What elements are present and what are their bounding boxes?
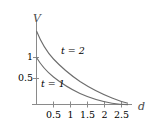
x-axis-title: d <box>138 95 145 114</box>
curve-label-t-1: t = 1 <box>41 78 65 89</box>
y-tick-label-1: 1 <box>25 51 33 62</box>
curve-t-2 <box>37 31 129 103</box>
x-tick-label-1: 1 <box>64 109 77 120</box>
decay-curve-figure: V d 1 0.5 0.5 1 1.5 2 2.5 t = 2 t = 1 <box>0 0 157 131</box>
x-tick-label-2-5: 2.5 <box>111 109 132 120</box>
y-axis-title: V <box>33 7 41 26</box>
y-tick-label-0-5: 0.5 <box>12 72 33 83</box>
x-tick-label-1-5: 1.5 <box>77 109 98 120</box>
x-tick-label-0-5: 0.5 <box>43 109 64 120</box>
x-tick-label-2: 2 <box>98 109 111 120</box>
curve-label-t-2-text: t = 2 <box>61 45 85 56</box>
curve-label-t-2: t = 2 <box>61 45 85 56</box>
curve-label-t-1-text: t = 1 <box>41 78 65 89</box>
